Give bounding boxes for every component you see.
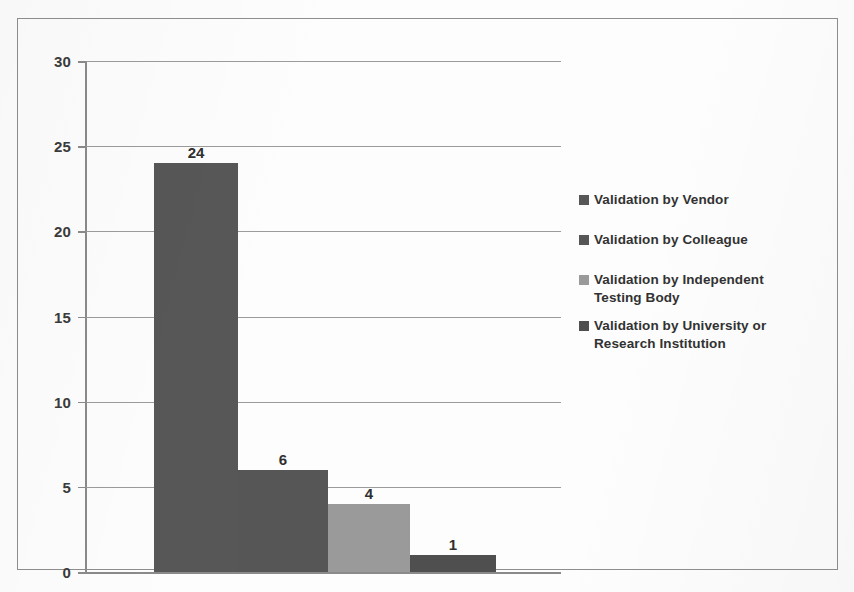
legend-label-3-line2: Testing Body [594, 290, 680, 305]
legend-label-3: Validation by IndependentTesting Body [594, 271, 764, 307]
tick-mark-10 [78, 402, 86, 404]
chart-legend: Validation by Vendor Validation by Colle… [579, 191, 814, 375]
bar-value-label-1: 24 [188, 144, 205, 161]
chart-screenshot: 30 25 20 15 10 5 0 24 6 [0, 0, 854, 592]
gridline-30 [85, 61, 561, 62]
bar-validation-by-vendor[interactable]: 24 [154, 163, 238, 572]
bar-value-label-4: 1 [449, 536, 457, 553]
tick-mark-20 [78, 231, 86, 233]
legend-label-2: Validation by Colleague [594, 231, 748, 249]
ytick-label-30: 30 [54, 53, 71, 70]
legend-item-validation-by-independent-testing-body[interactable]: Validation by IndependentTesting Body [579, 271, 814, 307]
plot-area: 30 25 20 15 10 5 0 24 6 [85, 61, 561, 572]
legend-swatch-icon-1 [579, 195, 589, 205]
bar-value-label-2: 6 [279, 451, 287, 468]
bar-validation-by-university-or-research-institution[interactable]: 1 [410, 555, 496, 572]
ytick-label-20: 20 [54, 223, 71, 240]
legend-item-validation-by-vendor[interactable]: Validation by Vendor [579, 191, 814, 209]
legend-label-3-line1: Validation by Independent [594, 272, 764, 287]
tick-mark-0 [78, 572, 86, 574]
tick-mark-15 [78, 317, 86, 319]
legend-item-validation-by-colleague[interactable]: Validation by Colleague [579, 231, 814, 249]
legend-item-validation-by-university-or-research-institution[interactable]: Validation by University orResearch Inst… [579, 317, 814, 353]
legend-label-4: Validation by University orResearch Inst… [594, 317, 766, 353]
legend-swatch-icon-4 [579, 321, 589, 331]
gridline-25 [85, 146, 561, 147]
bar-value-label-3: 4 [365, 485, 373, 502]
legend-label-4-line2: Research Institution [594, 336, 726, 351]
legend-label-4-line1: Validation by University or [594, 318, 766, 333]
ytick-label-0: 0 [62, 564, 71, 581]
ytick-label-15: 15 [54, 308, 71, 325]
legend-swatch-icon-3 [579, 275, 589, 285]
bar-validation-by-independent-testing-body[interactable]: 4 [328, 504, 410, 572]
tick-mark-30 [78, 61, 86, 63]
bar-validation-by-colleague[interactable]: 6 [238, 470, 328, 572]
ytick-label-5: 5 [62, 478, 71, 495]
tick-mark-5 [78, 487, 86, 489]
legend-swatch-icon-2 [579, 235, 589, 245]
chart-frame: 30 25 20 15 10 5 0 24 6 [17, 18, 838, 570]
ytick-label-10: 10 [54, 393, 71, 410]
ytick-label-25: 25 [54, 138, 71, 155]
gridline-0-baseline [85, 572, 561, 574]
tick-mark-25 [78, 146, 86, 148]
legend-label-1: Validation by Vendor [594, 191, 729, 209]
